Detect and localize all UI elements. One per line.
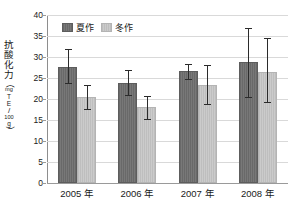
y-axis-tick-label: 10 [21, 136, 43, 146]
x-axis-tick-label: 2006 年 [107, 186, 167, 200]
y-axis-tick-label: 0 [21, 178, 43, 188]
error-bar-line [267, 38, 268, 102]
error-bar-cap-lower [84, 109, 91, 110]
bar-group [47, 15, 107, 183]
bar-group [168, 15, 228, 183]
y-axis-tick-label: 40 [21, 10, 43, 20]
y-axis-tick-label: 35 [21, 31, 43, 41]
y-axis-tick [42, 99, 46, 100]
y-axis-tick [42, 183, 46, 184]
error-bar-line [188, 64, 189, 79]
error-bar-cap-upper [144, 96, 151, 97]
y-axis-tick [42, 57, 46, 58]
summer-bar [118, 83, 137, 183]
error-bar-line [128, 70, 129, 95]
gridline [47, 183, 288, 184]
plot-area [47, 15, 288, 183]
y-axis-tick-label: 5 [21, 157, 43, 167]
error-bar-cap-lower [264, 102, 271, 103]
y-axis-unit-part: T [7, 93, 11, 100]
error-bar-cap-lower [144, 119, 151, 120]
y-axis-tick-label: 30 [21, 52, 43, 62]
y-axis-tick-label: 20 [21, 94, 43, 104]
bar-groups [47, 15, 288, 183]
y-axis-tick-label: 25 [21, 73, 43, 83]
bar-group [107, 15, 167, 183]
error-bar-cap-upper [65, 49, 72, 50]
error-bar-line [248, 28, 249, 97]
error-bar-cap-upper [84, 85, 91, 86]
y-axis-unit-part: / [8, 107, 10, 114]
bar-group [228, 15, 288, 183]
error-bar-cap-upper [204, 65, 211, 66]
error-bar-cap-lower [185, 79, 192, 80]
error-bar-cap-lower [65, 83, 72, 84]
y-axis-tick [42, 78, 46, 79]
summer-bar [179, 71, 198, 183]
error-bar-cap-lower [125, 95, 132, 96]
winter-swatch-icon [101, 23, 112, 32]
y-axis-tick-labels: 0510152025303540 [19, 15, 43, 183]
y-axis-tick [42, 36, 46, 37]
error-bar-line [87, 85, 88, 109]
y-axis-tick [42, 141, 46, 142]
error-bar-line [68, 49, 69, 83]
legend-label-summer: 夏作 [76, 21, 94, 34]
y-axis-tick-label: 15 [21, 115, 43, 125]
error-bar-line [147, 96, 148, 119]
summer-swatch-icon [62, 23, 73, 32]
y-axis-title: 抗 酸 化 力 （ mg T E / 100 g ） [1, 40, 17, 133]
legend-item-winter: 冬作 [101, 21, 133, 34]
legend-label-winter: 冬作 [115, 21, 133, 34]
x-axis-tick-labels: 2005 年2006 年2007 年2008 年 [47, 186, 288, 202]
y-axis-tick [42, 15, 46, 16]
error-bar-cap-upper [264, 38, 271, 39]
antioxidant-capacity-bar-chart: 抗 酸 化 力 （ mg T E / 100 g ） 0510152025303… [0, 0, 300, 207]
y-axis-unit: mg T E / 100 g [4, 86, 13, 127]
x-axis-tick-label: 2005 年 [47, 186, 107, 200]
y-axis-unit-open-paren: （ [6, 79, 12, 88]
x-axis-tick-label: 2007 年 [168, 186, 228, 200]
y-axis-tick [42, 120, 46, 121]
y-axis-unit-close-paren: ） [6, 126, 12, 135]
error-bar-cap-upper [125, 70, 132, 71]
summer-bar [58, 67, 77, 183]
legend: 夏作 冬作 [62, 21, 133, 34]
error-bar-cap-upper [245, 28, 252, 29]
error-bar-cap-lower [204, 104, 211, 105]
y-axis-tick [42, 162, 46, 163]
error-bar-cap-upper [185, 64, 192, 65]
x-axis-tick-label: 2008 年 [228, 186, 288, 200]
legend-item-summer: 夏作 [62, 21, 94, 34]
error-bar-cap-lower [245, 97, 252, 98]
error-bar-line [207, 65, 208, 104]
